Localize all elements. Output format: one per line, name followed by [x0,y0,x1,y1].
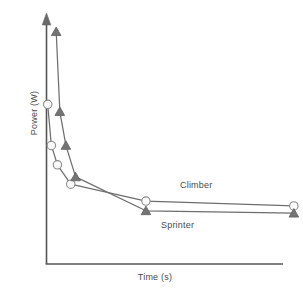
sprinter-point-2 [61,141,71,150]
x-axis-label: Time (s) [120,272,190,282]
power-time-chart: Power (W) Time (s) Climber Sprinter [0,0,303,293]
climber-point-0 [44,100,52,108]
climber-line [48,104,294,206]
sprinter-point-1 [55,107,65,116]
climber-markers [44,100,299,210]
y-axis-label: Power (W) [29,83,39,143]
sprinter-series-label: Sprinter [161,220,194,230]
chart-plot-area [0,0,303,293]
climber-point-3 [67,180,75,188]
sprinter-line [56,32,294,214]
series-climber [44,100,299,210]
climber-series-label: Climber [180,180,212,190]
sprinter-point-0 [51,27,61,36]
climber-point-4 [142,197,150,205]
sprinter-point-3 [71,172,81,181]
y-axis [42,13,51,264]
climber-point-1 [47,141,55,149]
climber-point-2 [53,161,61,169]
y-axis-arrowhead [42,13,51,25]
